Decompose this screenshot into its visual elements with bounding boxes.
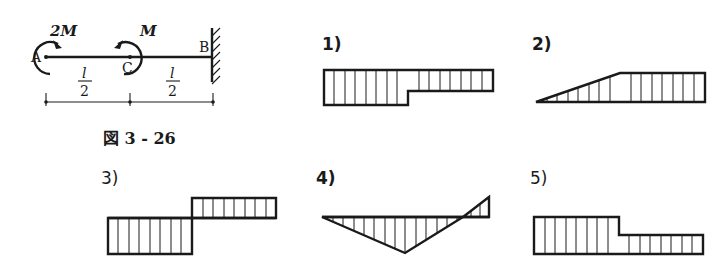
point-A-label: A — [30, 49, 42, 65]
dimension-line — [44, 93, 215, 106]
option-5-diagram — [534, 217, 703, 254]
option-5[interactable]: 5) — [530, 168, 703, 254]
span-CB-denominator: 2 — [168, 83, 177, 99]
option-4-hatching — [333, 204, 480, 253]
span-CB-numerator: l — [170, 65, 174, 81]
option-4-label: 4) — [316, 168, 336, 188]
point-B-label: B — [199, 39, 209, 55]
option-5-label: 5) — [530, 168, 547, 188]
point-C-dot — [128, 55, 132, 59]
fixed-wall-icon — [212, 28, 220, 84]
span-AC-denominator: 2 — [80, 83, 89, 99]
option-2-hatching — [547, 73, 694, 102]
option-2[interactable]: 2) — [532, 34, 705, 102]
option-1[interactable]: 1) — [322, 34, 493, 105]
beam-figure: 2M M A C B l 2 l 2 図 3 - 26 — [30, 22, 220, 148]
moment-A-label: 2M — [49, 22, 77, 40]
option-2-diagram — [536, 73, 705, 102]
figure-caption: 図 3 - 26 — [103, 129, 176, 148]
span-AC-numerator: l — [82, 65, 86, 81]
option-3[interactable]: 3) — [101, 168, 276, 254]
option-3-label: 3) — [101, 168, 118, 188]
hinge-A-dot — [44, 55, 48, 59]
option-1-diagram — [324, 70, 493, 105]
diagram-canvas: 2M M A C B l 2 l 2 図 3 - 26 1) — [0, 0, 725, 271]
moment-C-label: M — [139, 22, 157, 40]
option-2-label: 2) — [532, 34, 552, 54]
option-4[interactable]: 4) — [316, 168, 489, 253]
option-1-label: 1) — [322, 34, 342, 54]
point-C-label: C — [122, 60, 133, 76]
option-4-upper-triangle — [463, 197, 489, 217]
